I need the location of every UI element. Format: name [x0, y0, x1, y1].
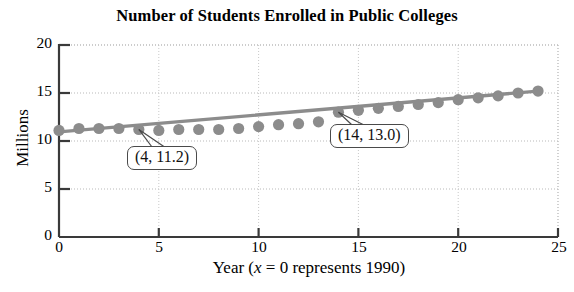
annotation-callout-2: (14, 13.0) — [330, 124, 409, 148]
annotation-callout-1: (4, 11.2) — [127, 146, 197, 170]
plot-canvas — [0, 0, 574, 292]
chart-figure: Number of Students Enrolled in Public Co… — [0, 0, 574, 292]
gridlines — [59, 45, 558, 237]
